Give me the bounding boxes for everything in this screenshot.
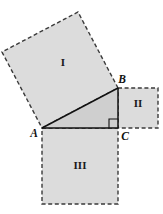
square-iii-label: III [74, 159, 87, 171]
figure-svg: I II III A B C [0, 0, 163, 214]
square-ii-label: II [134, 97, 143, 109]
vertex-label-b: B [117, 73, 126, 85]
vertex-label-c: C [121, 130, 129, 142]
square-i-label: I [61, 56, 65, 68]
vertex-label-a: A [29, 127, 38, 139]
geometry-figure: I II III A B C [0, 0, 163, 214]
